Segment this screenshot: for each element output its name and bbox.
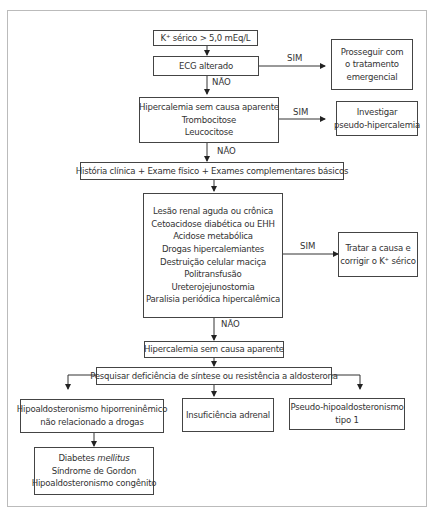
node-hyperkalemia-no-cause-2: Hipercalemia sem causa aparente [144, 341, 284, 358]
node-emergency-treatment: Prosseguir com o tratamento emergencial [331, 39, 413, 90]
node-text: Hipoaldosteronismo congênito [32, 477, 157, 490]
node-text: Síndrome de Gordon [52, 465, 137, 478]
node-text: Hipercalemia sem causa aparente [139, 101, 279, 114]
node-text: o tratamento [345, 58, 399, 71]
node-text: Destruição celular maciça [160, 256, 266, 269]
node-hyporeninemic-hypoaldosteronism: Hipoaldosteronismo hiporreninêmico não r… [20, 399, 164, 433]
node-text: Prosseguir com [341, 46, 404, 59]
node-subcauses: Diabetes mellitus Síndrome de Gordon Hip… [34, 447, 154, 495]
node-text: corrigir o K⁺ sérico [340, 255, 415, 268]
node-text-italic: mellitus [97, 452, 129, 463]
node-text: Hipercalemia sem causa aparente [144, 343, 284, 356]
node-ecg-altered: ECG alterado [153, 56, 259, 76]
node-adrenal-insufficiency: Insuficiência adrenal [182, 398, 274, 432]
node-text: Trombocitose [182, 114, 236, 127]
node-serum-potassium: K⁺ sérico > 5,0 mEq/L [153, 30, 258, 46]
node-text: K⁺ sérico > 5,0 mEq/L [161, 32, 251, 45]
node-causes-list: Lesão renal aguda ou crônica Cetoacidose… [143, 193, 283, 318]
node-text: emergencial [347, 71, 398, 84]
edge-label-ecg-no: NÃO [212, 76, 231, 87]
node-text: Politransfusão [184, 268, 241, 281]
node-text: tipo 1 [335, 414, 358, 427]
node-text: Investigar [357, 106, 398, 119]
node-text: Leucocitose [185, 126, 233, 139]
node-pseudohypoaldosteronism: Pseudo-hipoaldosteronismo tipo 1 [289, 398, 405, 430]
node-text: Drogas hipercalemiantes [162, 243, 264, 256]
node-text: pseudo-hipercalemia [334, 119, 420, 132]
node-text: Hipoaldosteronismo hiporreninêmico [17, 403, 168, 416]
edge-label-causes-yes: SIM [300, 240, 315, 251]
node-investigate-pseudo: Investigar pseudo-hipercalemia [336, 101, 418, 136]
node-hyperkalemia-no-cause: Hipercalemia sem causa aparente Tromboci… [139, 97, 279, 143]
edge-label-no-cause-no: NÃO [217, 145, 236, 156]
node-text: Lesão renal aguda ou crônica [153, 205, 273, 218]
edge-label-ecg-yes: SIM [287, 52, 302, 63]
node-text: Acidose metabólica [173, 230, 253, 243]
node-text: Paralisia periódica hipercalêmica [146, 293, 280, 306]
node-text: Pesquisar deficiência de síntese ou resi… [90, 370, 338, 383]
node-text: Insuficiência adrenal [186, 409, 270, 422]
node-text: História clínica + Exame físico + Exames… [76, 165, 349, 178]
node-text: não relacionado a drogas [40, 416, 143, 429]
node-aldosterone-research: Pesquisar deficiência de síntese ou resi… [96, 367, 332, 385]
node-text: Diabetes mellitus [58, 452, 129, 465]
node-text: Tratar a causa e [345, 242, 410, 255]
node-text: ECG alterado [179, 60, 233, 73]
node-history-exams: História clínica + Exame físico + Exames… [80, 162, 344, 180]
node-text: Ureterojejunostomia [171, 281, 254, 294]
node-text: Pseudo-hipoaldosteronismo [290, 401, 403, 414]
node-text: Cetoacidose diabética ou EHH [151, 218, 274, 231]
node-text-prefix: Diabetes [58, 452, 97, 463]
node-treat-cause: Tratar a causa e corrigir o K⁺ sérico [338, 232, 418, 277]
edge-label-no-cause-yes: SIM [293, 106, 308, 117]
edge-label-causes-no: NÃO [221, 318, 240, 329]
